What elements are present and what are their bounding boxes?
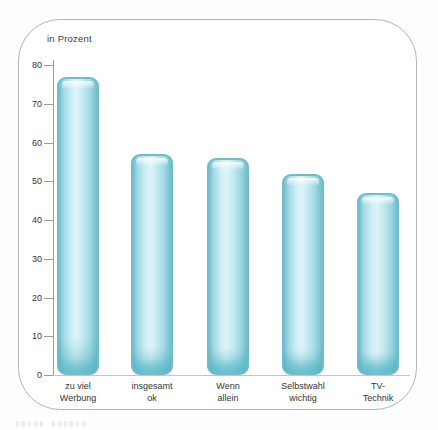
cropped-caption-remnant <box>52 421 88 427</box>
x-tick-label: Selbstwahl wichtig <box>263 381 343 404</box>
y-tick-mark <box>44 65 53 66</box>
chart-title: in Prozent <box>47 33 92 44</box>
y-tick-label: 20 <box>22 293 42 303</box>
y-tick-mark <box>44 298 53 299</box>
y-tick-mark <box>44 259 53 260</box>
x-tick-label: TV- Technik <box>338 381 418 404</box>
y-tick-mark <box>44 220 53 221</box>
x-axis-line <box>53 375 410 376</box>
x-tick-label: insgesamt ok <box>112 381 192 404</box>
y-tick-mark <box>44 181 53 182</box>
y-tick-label: 0 <box>22 370 42 380</box>
y-tick-label: 60 <box>22 138 42 148</box>
y-tick-label: 10 <box>22 331 42 341</box>
cropped-caption-remnant <box>16 421 44 427</box>
y-tick-label: 40 <box>22 215 42 225</box>
y-tick-mark <box>44 375 53 376</box>
y-tick-label: 50 <box>22 176 42 186</box>
bar <box>57 77 99 375</box>
bar <box>282 174 324 376</box>
bar <box>207 158 249 375</box>
y-tick-mark <box>44 336 53 337</box>
y-tick-mark <box>44 143 53 144</box>
x-tick-label: zu viel Werbung <box>38 381 118 404</box>
y-tick-mark <box>44 104 53 105</box>
bar <box>357 193 399 375</box>
x-tick-label: Wenn allein <box>188 381 268 404</box>
bar <box>131 154 173 375</box>
y-tick-label: 30 <box>22 254 42 264</box>
y-axis-line <box>53 60 54 375</box>
y-tick-label: 80 <box>22 60 42 70</box>
figure-canvas: in Prozent 01020304050607080 zu viel Wer… <box>0 0 438 430</box>
y-tick-label: 70 <box>22 99 42 109</box>
